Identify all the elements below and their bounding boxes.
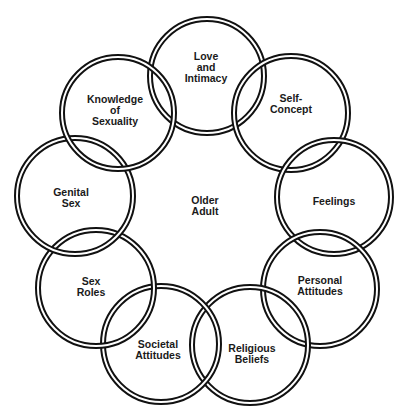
circle-label-sex-roles: Sex Roles <box>77 276 106 298</box>
circle-label-genital-sex: Genital Sex <box>53 187 89 209</box>
circle-label-knowledge-of-sexuality: Knowledge of Sexuality <box>87 94 143 127</box>
circle-label-personal-attitudes: Personal Attitudes <box>297 275 343 297</box>
circle-label-societal-attitudes: Societal Attitudes <box>135 339 181 361</box>
circle-label-love-and-intimacy: Love and Intimacy <box>185 51 228 84</box>
circle-label-religious-beliefs: Religious Beliefs <box>228 343 275 365</box>
center-label-older-adult: Older Adult <box>191 195 218 217</box>
circle-label-self-concept: Self- Concept <box>270 93 312 115</box>
circle-label-feelings: Feelings <box>313 196 356 207</box>
